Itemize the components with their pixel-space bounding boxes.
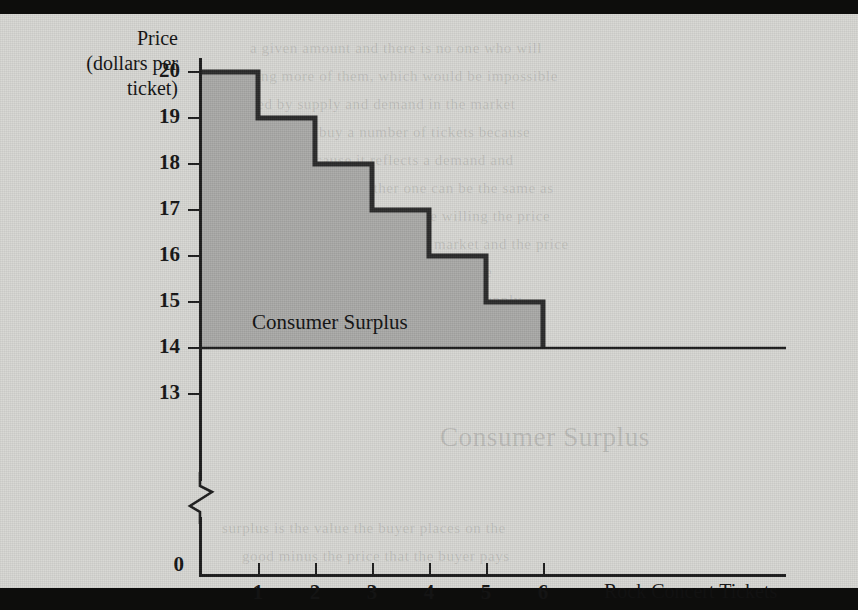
x-axis-title: Rock Concert Tickets (604, 580, 777, 603)
y-axis-title-line-1: Price (20, 26, 178, 51)
x-axis-tick-label-4: 4 (409, 580, 449, 605)
y-axis-tick-15 (188, 301, 200, 303)
x-axis-tick-1 (258, 563, 260, 575)
x-axis-tick-label-5: 5 (466, 580, 506, 605)
x-axis-tick-4 (429, 563, 431, 575)
y-axis-tick-label-19: 19 (136, 104, 180, 129)
y-axis-title-line-2: (dollars per (20, 51, 178, 76)
y-axis-tick-label-18: 18 (136, 150, 180, 175)
x-axis-tick-label-3: 3 (352, 580, 392, 605)
scan-band-top (0, 0, 858, 14)
x-axis-tick-label-1: 1 (238, 580, 278, 605)
x-axis-tick-5 (486, 563, 488, 575)
y-axis-title-line-3: ticket) (20, 76, 178, 101)
y-axis-tick-label-17: 17 (136, 196, 180, 221)
figure-page: a given amount and there is no one who w… (0, 0, 858, 610)
y-axis-tick-label-15: 15 (136, 288, 180, 313)
y-axis-tick-13 (188, 393, 200, 395)
y-axis-title: Price (dollars per ticket) (20, 26, 178, 101)
chart-plot-area: 20191817161514130 123456 Price (dollars … (0, 14, 858, 588)
x-axis-line (199, 574, 786, 577)
y-axis-tick-17 (188, 209, 200, 211)
y-axis-upper-segment (199, 58, 202, 481)
paper-surface: a given amount and there is no one who w… (0, 14, 858, 588)
y-axis-tick-label-16: 16 (136, 242, 180, 267)
y-axis-tick-16 (188, 255, 200, 257)
y-axis-tick-label-13: 13 (136, 380, 180, 405)
y-axis-tick-label-0: 0 (140, 552, 184, 577)
y-axis-tick-label-14: 14 (136, 334, 180, 359)
y-axis-tick-19 (188, 117, 200, 119)
x-axis-tick-2 (315, 563, 317, 575)
consumer-surplus-label: Consumer Surplus (252, 310, 408, 335)
x-axis-tick-3 (372, 563, 374, 575)
y-axis-tick-14 (188, 347, 200, 349)
x-axis-tick-label-2: 2 (295, 580, 335, 605)
x-axis-tick-6 (543, 563, 545, 575)
y-axis-lower-segment (199, 517, 202, 577)
axis-break-icon (186, 472, 218, 524)
y-axis-tick-20 (188, 71, 200, 73)
x-axis-tick-label-6: 6 (523, 580, 563, 605)
y-axis-tick-18 (188, 163, 200, 165)
